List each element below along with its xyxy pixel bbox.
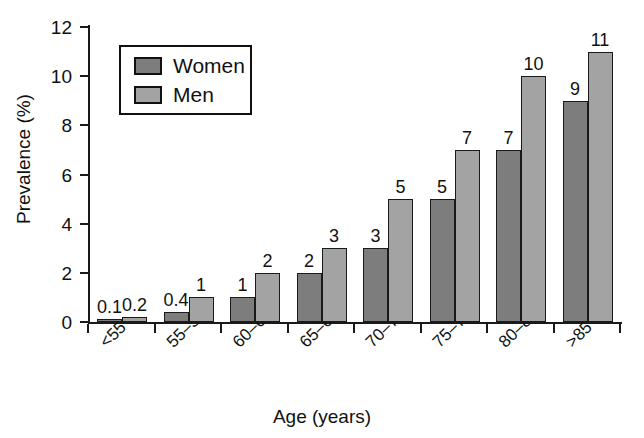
x-axis-line (88, 322, 622, 324)
bar-men-0 (122, 317, 147, 322)
legend-entry-men: Men (134, 82, 214, 108)
bar-men-3 (322, 248, 347, 322)
legend-entry-women: Women (134, 53, 245, 79)
bar-women-5 (430, 199, 455, 322)
legend-swatch-men-icon (134, 86, 162, 104)
bar-men-7 (588, 52, 613, 322)
bar-men-2 (255, 273, 280, 322)
bar-women-2 (230, 297, 255, 322)
bar-value-men-5: 7 (447, 129, 488, 147)
bar-value-men-4: 5 (380, 178, 421, 196)
legend-swatch-women-icon (134, 57, 162, 75)
chart-figure: Prevalence (%) Age (years) 024681012 <55… (0, 0, 644, 438)
bar-men-6 (521, 76, 546, 322)
y-tick-12 (80, 26, 88, 28)
x-tick-7 (553, 324, 555, 333)
y-tick-0 (80, 321, 88, 323)
bar-value-men-1: 1 (181, 276, 222, 294)
bar-women-0 (97, 319, 122, 322)
y-tick-2 (80, 272, 88, 274)
y-tick-10 (80, 75, 88, 77)
bar-value-men-3: 3 (314, 227, 355, 245)
x-tick-5 (420, 324, 422, 333)
bar-women-3 (297, 273, 322, 322)
y-axis-title: Prevalence (%) (13, 49, 35, 269)
y-tick-4 (80, 223, 88, 225)
y-tick-6 (80, 174, 88, 176)
x-tick-3 (287, 324, 289, 333)
x-tick-2 (220, 324, 222, 333)
bar-women-7 (563, 101, 588, 322)
x-tick-end (619, 324, 621, 333)
x-tick-0 (87, 324, 89, 333)
y-tick-8 (80, 124, 88, 126)
bar-value-men-0: 0.2 (114, 296, 155, 314)
legend-label-men: Men (173, 83, 214, 107)
bar-value-men-6: 10 (513, 55, 554, 73)
x-axis-title: Age (years) (0, 406, 644, 428)
x-tick-4 (353, 324, 355, 333)
bar-value-men-2: 2 (247, 252, 288, 270)
legend: Women Men (119, 45, 252, 115)
bar-women-6 (496, 150, 521, 322)
bar-women-1 (164, 312, 189, 322)
legend-label-women: Women (173, 54, 245, 78)
bar-men-5 (455, 150, 480, 322)
bar-men-4 (388, 199, 413, 322)
bar-women-4 (363, 248, 388, 322)
bar-men-1 (189, 297, 214, 322)
bar-value-men-7: 11 (580, 31, 621, 49)
x-tick-6 (486, 324, 488, 333)
x-tick-1 (154, 324, 156, 333)
